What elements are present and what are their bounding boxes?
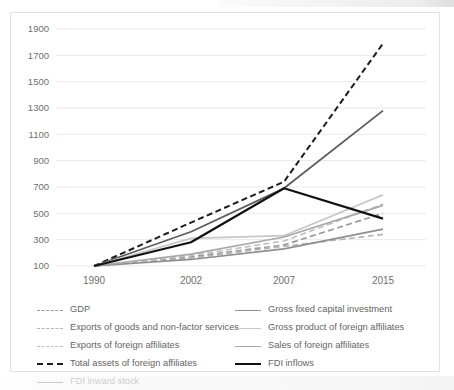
legend-item[interactable]: FDI inflows [235, 355, 431, 373]
legend-swatch-icon [235, 310, 261, 311]
y-axis-tick-label: 1900 [28, 23, 49, 34]
y-axis-tick-label: 500 [33, 208, 49, 219]
legend-label: Gross product of foreign affiliates [268, 323, 404, 332]
y-axis-tick-label: 100 [33, 260, 49, 271]
x-axis-tick-label: 2002 [180, 275, 203, 286]
legend-item[interactable]: Exports of goods and non-factor services [37, 319, 249, 337]
legend-item[interactable]: Total assets of foreign affiliates [37, 355, 249, 373]
legend-swatch-icon [235, 328, 261, 329]
legend-swatch-icon [235, 346, 261, 347]
legend-label: Exports of foreign affiliates [70, 341, 179, 350]
x-axis-tick-label: 2015 [372, 275, 395, 286]
x-axis-tick-label: 1990 [83, 275, 106, 286]
legend-label: Gross fixed capital investment [268, 305, 392, 314]
legend-label: GDP [70, 305, 90, 314]
legend-swatch-icon [37, 346, 63, 347]
legend-item[interactable]: Gross product of foreign affiliates [235, 319, 431, 337]
legend-label: Total assets of foreign affiliates [70, 359, 197, 368]
legend-item[interactable]: Sales of foreign affiliates [235, 337, 431, 355]
line-chart: 1003005007009001100130015001700190019902… [11, 13, 439, 295]
y-axis-tick-label: 1100 [29, 129, 49, 140]
legend-item[interactable]: Gross fixed capital investment [235, 301, 431, 319]
chart-legend: GDPExports of goods and non-factor servi… [23, 301, 429, 385]
legend-label: Exports of goods and non-factor services [70, 323, 239, 332]
legend-swatch-icon [37, 310, 63, 311]
legend-swatch-icon [37, 363, 63, 365]
legend-swatch-icon [235, 363, 261, 365]
series-line-total-assets-of-foreign-affiliates [94, 43, 383, 266]
legend-label: Sales of foreign affiliates [268, 341, 369, 350]
figure-card: 1003005007009001100130015001700190019902… [10, 12, 440, 372]
y-axis-tick-label: 300 [33, 234, 49, 245]
x-axis-tick-label: 2007 [273, 275, 296, 286]
y-axis-tick-label: 900 [33, 155, 49, 166]
legend-item[interactable]: Exports of foreign affiliates [37, 337, 249, 355]
legend-column-right: Gross fixed capital investmentGross prod… [235, 301, 431, 373]
legend-item[interactable]: GDP [37, 301, 249, 319]
y-axis-tick-label: 1700 [28, 50, 49, 61]
y-axis-tick-label: 1500 [28, 76, 49, 87]
scan-artifact-top [218, 0, 454, 7]
y-axis-tick-label: 700 [33, 181, 49, 192]
legend-label: FDI inflows [268, 359, 314, 368]
legend-swatch-icon [37, 328, 63, 329]
scan-artifact-bottom [0, 376, 454, 390]
y-axis-tick-label: 1300 [28, 102, 49, 113]
